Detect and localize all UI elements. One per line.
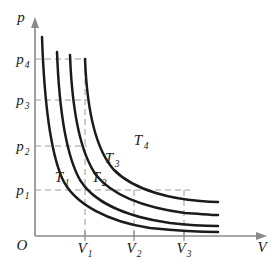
y-tick-label-p4: p 4 bbox=[15, 51, 29, 70]
x-tick-label-v3-sub: 3 bbox=[186, 249, 192, 259]
isotherm-curve-t3 bbox=[70, 55, 218, 215]
y-tick-label-p3-base: p bbox=[15, 92, 24, 108]
isotherm-curve-t1 bbox=[42, 37, 218, 232]
y-tick-label-p3: p 3 bbox=[15, 92, 29, 111]
origin-label: O bbox=[17, 237, 28, 253]
isotherm-label-t4: T 4 bbox=[134, 132, 149, 151]
isotherm-label-t3-base: T bbox=[105, 150, 115, 166]
y-tick-label-p2-sub: 2 bbox=[25, 147, 30, 157]
isotherm-label-t2: T 2 bbox=[92, 169, 107, 188]
x-tick-label-v3: V 3 bbox=[176, 240, 191, 259]
isotherm-label-t1-sub: 1 bbox=[65, 178, 70, 188]
y-axis-arrow bbox=[31, 17, 39, 28]
y-tick-label-p3-sub: 3 bbox=[24, 101, 30, 111]
isotherm-label-t4-base: T bbox=[134, 132, 144, 148]
isotherm-label-t2-sub: 2 bbox=[102, 178, 107, 188]
y-tick-label-p2: p 2 bbox=[15, 138, 29, 157]
isotherm-label-t1: T 1 bbox=[55, 169, 70, 188]
y-tick-label-p2-base: p bbox=[15, 138, 24, 154]
x-tick-label-v2-sub: 2 bbox=[137, 249, 142, 259]
y-tick-label-p4-sub: 4 bbox=[25, 60, 30, 70]
x-tick-label-v1: V 1 bbox=[77, 240, 92, 259]
y-tick-label-p1-base: p bbox=[15, 182, 24, 198]
x-axis-label: V bbox=[257, 239, 268, 255]
pv-isotherm-figure: p V O p 4 p 3 p 2 p 1 bbox=[0, 0, 280, 262]
x-tick-label-v2: V 2 bbox=[126, 240, 141, 259]
isotherm-curves bbox=[42, 37, 218, 232]
y-axis-label: p bbox=[16, 9, 25, 25]
pv-chart-canvas: p V O p 4 p 3 p 2 p 1 bbox=[0, 0, 280, 262]
y-tick-labels: p 4 p 3 p 2 p 1 bbox=[15, 51, 29, 201]
x-tick-label-v1-sub: 1 bbox=[88, 249, 93, 259]
isotherm-label-t3-sub: 3 bbox=[114, 159, 120, 169]
isotherm-label-t4-sub: 4 bbox=[144, 141, 149, 151]
x-tick-labels: V 1 V 2 V 3 bbox=[77, 240, 191, 259]
y-tick-label-p4-base: p bbox=[15, 51, 24, 67]
isotherm-labels: T 1 T 2 T 3 T 4 bbox=[55, 132, 149, 188]
isotherm-label-t2-base: T bbox=[92, 169, 102, 185]
y-tick-label-p1-sub: 1 bbox=[25, 191, 30, 201]
y-tick-label-p1: p 1 bbox=[15, 182, 29, 201]
axes-group bbox=[31, 17, 267, 241]
